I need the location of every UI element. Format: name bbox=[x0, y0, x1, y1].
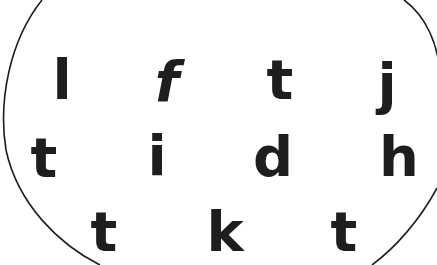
letter-t: t bbox=[331, 204, 358, 260]
letter-h: h bbox=[379, 129, 419, 185]
letter-l: l bbox=[52, 52, 71, 108]
letter-f: f bbox=[155, 54, 179, 110]
letter-t: t bbox=[91, 204, 118, 260]
letter-j: j bbox=[377, 56, 396, 112]
letter-t: t bbox=[31, 130, 58, 186]
letter-k: k bbox=[206, 204, 243, 260]
letter-d: d bbox=[253, 129, 293, 185]
letter-t: t bbox=[267, 52, 294, 108]
letter-i: i bbox=[147, 128, 166, 184]
worksheet-canvas: l f t j t i d h t k t bbox=[0, 0, 437, 265]
